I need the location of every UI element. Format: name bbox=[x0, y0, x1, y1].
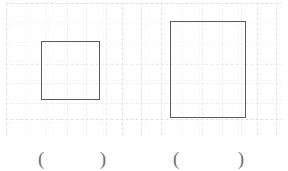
close-paren-icon: ) bbox=[238, 149, 244, 168]
shape-square bbox=[41, 41, 100, 100]
shape-rectangle bbox=[170, 21, 246, 118]
worksheet-page: ( ) ( ) bbox=[0, 0, 288, 171]
open-paren-icon: ( bbox=[38, 149, 44, 168]
answer-blank-rectangle[interactable]: ( ) bbox=[173, 146, 244, 171]
answer-blank-square[interactable]: ( ) bbox=[38, 146, 106, 171]
open-paren-icon: ( bbox=[173, 149, 179, 168]
close-paren-icon: ) bbox=[100, 149, 106, 168]
